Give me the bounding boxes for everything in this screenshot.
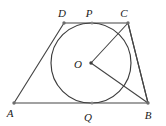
vertex-c-dot xyxy=(126,21,129,24)
label-a: A xyxy=(6,107,14,119)
vertex-a-dot xyxy=(12,101,15,104)
tangent-point-p-dot xyxy=(91,22,94,25)
center-o-dot xyxy=(89,61,92,64)
radius-oc xyxy=(91,23,128,63)
vertex-d-dot xyxy=(62,21,65,24)
side-da xyxy=(14,23,64,103)
label-o: O xyxy=(74,58,82,70)
label-p: P xyxy=(85,7,93,19)
label-q: Q xyxy=(84,111,92,123)
vertex-b-dot xyxy=(146,101,149,104)
label-d: D xyxy=(57,7,66,19)
label-b: B xyxy=(145,109,152,121)
geometry-canvas: A B C D O P Q xyxy=(0,0,166,126)
tangent-point-q-dot xyxy=(91,102,94,105)
label-c: C xyxy=(120,7,128,19)
geometry-figure: A B C D O P Q xyxy=(0,0,166,126)
